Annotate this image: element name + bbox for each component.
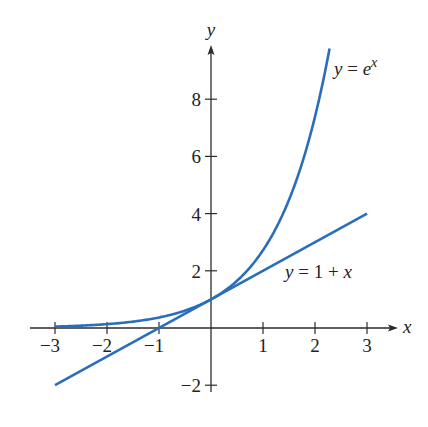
y-tick-label: 4 [192, 204, 202, 225]
x-axis-label: x [402, 316, 412, 337]
y-tick-label: 2 [192, 261, 202, 282]
axes [30, 45, 398, 392]
x-tick-label: 1 [258, 335, 268, 356]
y-axis-label: y [205, 19, 216, 40]
labels: −3−2−1123−22468xyy = exy = 1 + x [40, 19, 412, 396]
x-tick-label: 3 [362, 335, 372, 356]
x-tick-label: 2 [310, 335, 320, 356]
exp-curve-label: y = ex [332, 55, 378, 79]
x-tick-label: −1 [144, 335, 164, 356]
y-tick-label: −2 [181, 375, 201, 396]
y-tick-label: 8 [192, 89, 202, 110]
x-tick-label: −3 [40, 335, 60, 356]
tangent-line-label: y = 1 + x [283, 261, 352, 282]
chart-plot: −3−2−1123−22468xyy = exy = 1 + x [0, 0, 428, 427]
y-tick-label: 6 [192, 146, 202, 167]
x-tick-label: −2 [92, 335, 112, 356]
